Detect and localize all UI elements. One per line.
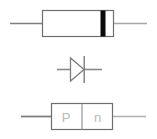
physical-diode-package xyxy=(10,11,147,37)
diode-symbol-triangle xyxy=(71,58,85,81)
diode-figure-canvas: P n xyxy=(0,0,157,139)
physical-diode-cathode-band xyxy=(101,11,106,37)
pn-junction-n-label: n xyxy=(94,110,101,125)
pn-junction-p-label: P xyxy=(62,110,71,125)
diode-figure: P n xyxy=(0,0,157,139)
diode-schematic-symbol xyxy=(57,56,102,83)
pn-junction-diagram: P n xyxy=(21,104,146,130)
